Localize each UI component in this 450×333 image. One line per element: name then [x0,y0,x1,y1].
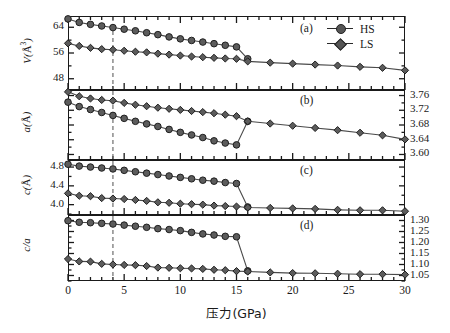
data-point-ls [233,268,240,275]
legend-marker-diamond [334,38,347,51]
data-point-ls [154,264,161,271]
ytick-label-c-over-a: 1.30 [410,213,450,225]
xtick-label: 0 [54,284,82,296]
ytick-label-c-over-a: 1.25 [410,224,450,236]
data-point-hs [233,233,240,240]
data-point-ls [132,262,139,269]
xtick-label: 20 [279,284,307,296]
data-point-hs [65,217,72,224]
xtick-label: 5 [110,284,138,296]
legend-label: LS [360,38,373,50]
xtick-label: 30 [391,284,419,296]
data-point-hs [132,223,139,230]
axis-label-pressure: 压力(GPa) [177,303,297,322]
data-point-hs [110,221,117,228]
data-point-ls [98,260,105,267]
data-point-ls [312,270,319,277]
data-point-hs [87,219,94,226]
data-point-ls [121,261,128,268]
data-point-ls [166,264,173,271]
legend-marker-circle [336,24,346,34]
data-point-hs [177,227,184,234]
data-point-ls [64,255,71,262]
data-point-hs [76,219,83,226]
legend-item-hs[interactable]: HS [327,21,442,36]
axis-label-c-over-a: c/a [20,225,32,265]
figure-canvas: 485664V(Å3)(a)3.603.643.683.723.76a(Å)(b… [0,0,450,333]
data-point-ls [188,265,195,272]
data-point-hs [188,229,195,236]
xtick-label: 10 [166,284,194,296]
data-point-ls [356,271,363,278]
data-point-ls [379,271,386,278]
data-point-hs [121,222,128,229]
data-point-ls [87,258,94,265]
data-point-ls [143,262,150,269]
xtick-label: 25 [335,284,363,296]
legend-item-ls[interactable]: LS [327,36,442,51]
data-point-ls [199,265,206,272]
legend-label: HS [360,23,375,35]
data-point-hs [222,233,229,240]
data-point-hs [143,224,150,231]
data-point-hs [211,232,218,239]
panel-label-c-over-a: (d) [300,219,313,231]
ytick-label-c-over-a: 1.05 [410,268,450,280]
legend: HSLS [325,20,446,52]
ytick-label-c-over-a: 1.15 [410,246,450,258]
data-point-ls [109,261,116,268]
xtick-label: 15 [223,284,251,296]
ytick-label-c-over-a: 1.10 [410,257,450,269]
data-point-ls [76,258,83,265]
data-point-ls [334,270,341,277]
data-point-hs [155,225,162,232]
data-point-ls [222,267,229,274]
data-point-ls [210,266,217,273]
data-point-hs [200,231,207,238]
ytick-label-c-over-a: 1.20 [410,235,450,247]
data-point-ls [177,265,184,272]
data-point-hs [166,226,173,233]
data-point-ls [401,271,408,278]
data-point-ls [267,269,274,276]
data-point-ls [289,269,296,276]
legend-line-hs [327,28,353,29]
legend-line-ls [327,43,353,44]
data-point-hs [98,220,105,227]
